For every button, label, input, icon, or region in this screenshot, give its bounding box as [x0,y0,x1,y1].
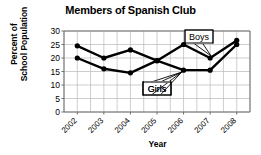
data-point-boys [101,55,106,60]
y-tick-label: 25 [51,40,61,50]
data-point-girls [181,68,186,73]
data-point-girls [75,55,80,60]
x-tick-label: 2005 [139,116,158,135]
chart-plot: 051015202530 200220032004200520062007200… [0,0,261,155]
x-tick-label: 2008 [219,116,238,135]
y-tick-label: 20 [51,53,61,63]
y-tick-label: 0 [55,107,60,117]
x-tick-label: 2003 [86,116,105,135]
x-tick-label: 2004 [113,116,132,135]
y-tick-label: 15 [51,67,61,77]
data-point-boys [75,43,80,48]
chart-container: Members of Spanish Club Percent of Schoo… [0,0,261,155]
axes [62,31,251,115]
y-tick-label: 10 [51,80,61,90]
data-point-girls [208,68,213,73]
y-tick-labels: 051015202530 [51,26,61,117]
data-point-girls [154,58,159,63]
gridlines [64,31,250,112]
x-tick-label: 2007 [193,116,212,135]
data-point-boys [128,47,133,52]
y-tick-label: 5 [55,94,60,104]
y-tick-label: 30 [51,26,61,36]
boys-callout-label: Boys [189,32,210,42]
x-tick-label: 2006 [166,116,185,135]
x-tick-label: 2002 [60,116,79,135]
x-tick-labels: 2002200320042005200620072008 [60,116,239,135]
data-point-girls [128,70,133,75]
girls-callout-label-2: Girls [148,84,167,94]
data-point-girls [234,42,239,47]
data-point-girls [101,66,106,71]
data-point-boys [208,55,213,60]
